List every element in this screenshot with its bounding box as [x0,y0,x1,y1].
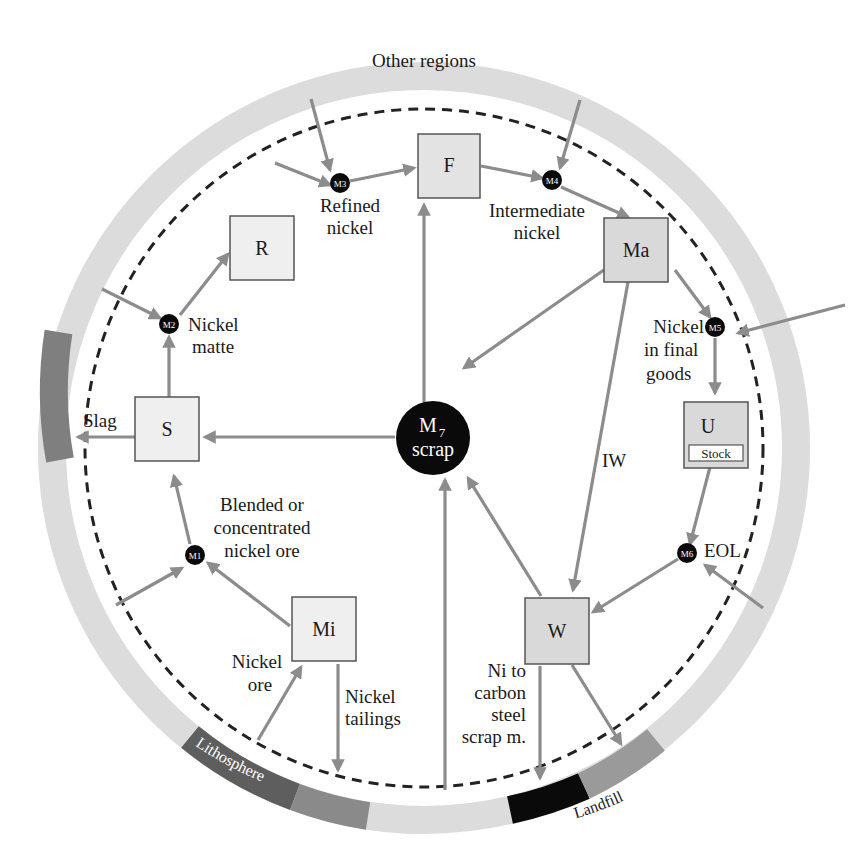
stock-label: Stock [701,446,731,461]
process-w: W [525,598,589,664]
svg-text:M4: M4 [546,176,559,186]
final-goods-label-3: goods [646,363,691,384]
w-to-m7-flow [468,478,541,596]
svg-text:R: R [255,237,269,259]
m6-to-w-flow [593,559,678,612]
r-to-m3-flow [275,163,330,185]
process-boxes: F R Ma S U Stock Mi W [135,134,748,664]
blended-ore-label-1: Blended or [220,494,305,515]
intermediate-nickel-label-2: nickel [514,222,560,243]
final-goods-label-2: in final [644,339,698,360]
mi-to-m1-flow [208,563,290,626]
refined-nickel-label-1: Refined [320,195,381,216]
market-m3: M3 [330,173,350,193]
ma-to-m7-flow [464,265,611,368]
m3-to-f-flow [350,168,414,181]
process-u: U Stock [684,402,748,468]
iw-label: IW [602,450,626,471]
blended-ore-label-2: concentrated [213,517,311,538]
svg-text:Mi: Mi [312,618,336,640]
process-s: S [135,397,199,461]
svg-text:Ma: Ma [623,239,650,261]
carbon-steel-label-3: steel [491,704,526,725]
svg-text:M2: M2 [163,320,176,330]
slag-label: Slag [83,410,117,431]
other-regions-label: Other regions [372,50,476,71]
nickel-matte-label-2: matte [192,336,234,357]
iw-flow [573,282,628,590]
svg-text:scrap: scrap [412,438,454,461]
final-goods-label-1: Nickel [653,316,704,337]
landfill-flow [572,665,621,744]
m2-to-r-flow [180,254,228,315]
svg-text:W: W [548,620,567,642]
process-r: R [230,216,294,280]
svg-text:F: F [443,154,454,176]
nickel-cycle-diagram: Other regions Lithosphere Landfill [0,0,848,848]
u-to-m6-flow [690,467,710,544]
m1-to-s-flow [174,476,190,544]
svg-text:M5: M5 [709,323,722,333]
svg-text:S: S [161,418,172,440]
market-m6: M6 [677,543,697,563]
f-to-m4-flow [481,166,542,178]
market-m4: M4 [542,170,562,190]
import-refined-flow [311,99,330,170]
process-ma: Ma [604,218,668,282]
tailings-label-2: tailings [345,708,401,729]
slag-sink-segment [54,332,60,460]
svg-text:U: U [701,415,716,437]
market-m1: M1 [185,545,205,565]
import-matte-flow [102,289,160,318]
intermediate-nickel-label-1: Intermediate [489,200,585,221]
svg-text:M3: M3 [334,179,347,189]
carbon-steel-label-4: scrap m. [462,726,526,747]
svg-text:M1: M1 [189,551,202,561]
nickel-matte-label-1: Nickel [188,314,239,335]
eol-label: EOL [704,540,741,561]
carbon-steel-label-2: carbon [474,682,526,703]
nickel-ore-label-1: Nickel [232,651,283,672]
ma-to-m5-flow [675,270,710,317]
refined-nickel-label-2: nickel [327,217,373,238]
process-f: F [418,134,480,198]
nickel-ore-label-2: ore [248,674,272,695]
process-mi: Mi [292,597,356,661]
svg-text:M: M [419,414,437,436]
blended-ore-label-3: nickel ore [224,540,299,561]
svg-text:M6: M6 [681,549,694,559]
carbon-steel-label-1: Ni to [487,660,526,681]
import-ore-flow [116,568,182,605]
market-m5: M5 [705,317,725,337]
market-m2: M2 [159,314,179,334]
tailings-label-1: Nickel [345,686,396,707]
market-m7-scrap: M 7 scrap [396,401,470,475]
